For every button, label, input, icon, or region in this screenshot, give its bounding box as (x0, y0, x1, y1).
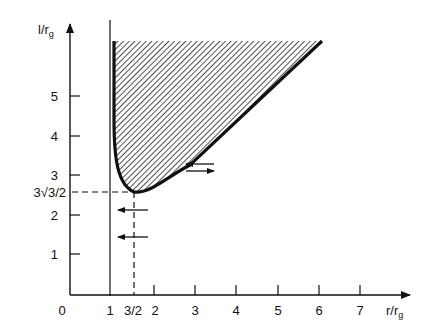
y-tick-label: 4 (51, 129, 58, 144)
y-tick-label: 3 (51, 168, 58, 183)
diagram-canvas: 1 2 3 4 5 3√3/2 0 1 3/2 2 3 4 5 6 7 l/rg… (0, 0, 430, 331)
x-tick-label: 1 (106, 303, 113, 318)
x-tick-label: 3 (191, 303, 198, 318)
x-tick-label: 7 (356, 303, 363, 318)
x-tick-label: 4 (232, 303, 239, 318)
y-tick-label: 2 (51, 208, 58, 223)
x-tick-label: 3/2 (124, 303, 142, 318)
y-tick-label: 5 (51, 89, 58, 104)
y-tick-label: 1 (51, 247, 58, 262)
x-tick-label: 2 (151, 303, 158, 318)
x-tick-label: 5 (274, 303, 281, 318)
y-ticks (70, 96, 80, 254)
hatched-region (114, 41, 322, 192)
y-axis-label: l/rg (38, 22, 54, 39)
special-y-label: 3√3/2 (34, 185, 66, 200)
x-axis-label: r/rg (386, 303, 403, 320)
origin-label: 0 (58, 303, 65, 318)
x-ticks (154, 285, 360, 295)
x-tick-label: 6 (315, 303, 322, 318)
